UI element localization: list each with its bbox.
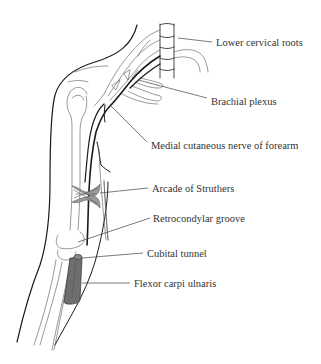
leader-brachial-plexus	[138, 80, 207, 98]
leader-arcade-of-struthers	[100, 188, 148, 193]
arcade-of-struthers-shape	[72, 184, 100, 208]
humerus-bone	[56, 87, 87, 260]
label-flexor-carpi-ulnaris: Flexor carpi ulnaris	[134, 278, 216, 289]
label-arcade-of-struthers: Arcade of Struthers	[152, 183, 234, 194]
label-lower-cervical-roots: Lower cervical roots	[216, 37, 303, 48]
ulnar-nerve-diagram: Lower cervical roots Brachial plexus Med…	[0, 0, 321, 364]
leader-cubital-tunnel	[82, 253, 143, 258]
leader-lower-cervical-roots	[178, 38, 212, 42]
labels: Lower cervical roots Brachial plexus Med…	[134, 37, 303, 289]
label-retrocondylar-groove: Retrocondylar groove	[153, 213, 245, 224]
brachial-plexus-bundle	[87, 30, 160, 245]
cervical-vertebrae	[160, 24, 208, 79]
label-cubital-tunnel: Cubital tunnel	[147, 248, 207, 259]
forearm-bones	[34, 260, 70, 350]
leader-medial-cutaneous-nerve	[110, 105, 147, 142]
leader-retrocondylar-groove	[78, 218, 150, 242]
ribs	[122, 78, 163, 104]
label-brachial-plexus: Brachial plexus	[211, 96, 277, 107]
label-medial-cutaneous-nerve: Medial cutaneous nerve of forearm	[151, 140, 299, 151]
